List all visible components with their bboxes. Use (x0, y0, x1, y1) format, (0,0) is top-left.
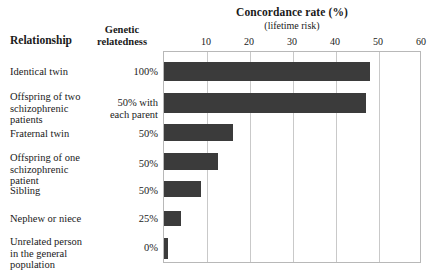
chart-subtitle: (lifetime risk) (163, 20, 421, 31)
row-label: Sibling (10, 185, 90, 197)
row-genetic-relatedness-line: 50% (88, 158, 158, 170)
row-genetic-relatedness: 50% (88, 158, 158, 170)
row-genetic-relatedness: 50% (88, 128, 158, 140)
row-label: Offspring of twoschizophrenicpatients (10, 91, 90, 126)
x-tick-label: 60 (406, 36, 436, 47)
gridline (379, 52, 380, 262)
row-label-line: schizophrenic (10, 164, 90, 176)
row-label-line: schizophrenic (10, 103, 90, 115)
gridline (250, 52, 251, 262)
bar (164, 124, 233, 141)
row-label-line: Offspring of two (10, 91, 90, 103)
gridline (336, 52, 337, 262)
x-tick-label: 40 (320, 36, 350, 47)
column-header-relationship: Relationship (10, 34, 72, 46)
x-tick-label: 20 (234, 36, 264, 47)
row-genetic-relatedness: 100% (88, 66, 158, 78)
row-label-line: Sibling (10, 185, 90, 197)
row-genetic-relatedness-line: 50% (88, 185, 158, 197)
x-tick-label: 10 (191, 36, 221, 47)
row-genetic-relatedness: 25% (88, 213, 158, 225)
row-genetic-relatedness-line: 0% (88, 242, 158, 254)
row-label: Identical twin (10, 66, 90, 78)
x-tick-label: 30 (277, 36, 307, 47)
bar (164, 62, 370, 81)
column-header-genetic-line2: relatedness (86, 36, 158, 48)
bar (164, 153, 218, 170)
row-genetic-relatedness-line: 25% (88, 213, 158, 225)
row-label-line: population (10, 259, 90, 271)
row-genetic-relatedness: 50% witheach parent (88, 97, 158, 120)
row-label-line: Nephew or niece (10, 213, 90, 225)
row-label: Nephew or niece (10, 213, 90, 225)
row-genetic-relatedness-line: 50% (88, 128, 158, 140)
bar (164, 211, 181, 226)
row-label-line: Offspring of one (10, 152, 90, 164)
row-label: Unrelated personin the generalpopulation (10, 236, 90, 271)
row-label-line: patients (10, 114, 90, 126)
row-genetic-relatedness: 0% (88, 242, 158, 254)
bar (164, 93, 366, 113)
row-genetic-relatedness-line: 50% with (88, 97, 158, 109)
chart-title: Concordance rate (%) (163, 6, 421, 18)
row-genetic-relatedness-line: 100% (88, 66, 158, 78)
row-label-line: Fraternal twin (10, 128, 90, 140)
gridline (293, 52, 294, 262)
row-label: Fraternal twin (10, 128, 90, 140)
plot-area (163, 51, 421, 263)
column-header-genetic-line1: Genetic (86, 24, 158, 36)
row-genetic-relatedness-line: each parent (88, 109, 158, 121)
chart-container: Concordance rate (%) (lifetime risk) Rel… (0, 0, 437, 279)
row-label-line: Identical twin (10, 66, 90, 78)
row-label: Offspring of oneschizophrenicpatient (10, 152, 90, 187)
bar (164, 181, 201, 197)
row-label-line: in the general (10, 248, 90, 260)
bar (164, 238, 168, 259)
x-tick-label: 50 (363, 36, 393, 47)
row-label-line: Unrelated person (10, 236, 90, 248)
column-header-genetic-relatedness: Genetic relatedness (86, 24, 158, 47)
row-genetic-relatedness: 50% (88, 185, 158, 197)
